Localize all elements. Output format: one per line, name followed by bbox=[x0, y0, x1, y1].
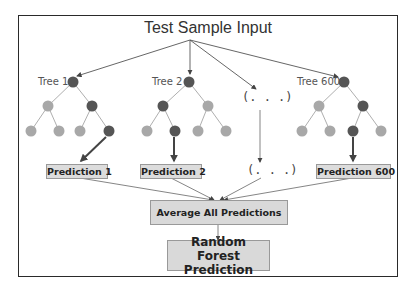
average-predictions-box: Average All Predictions bbox=[150, 200, 288, 225]
tree-ellipsis-label: (. . .) bbox=[242, 90, 293, 104]
aggregate-arrows bbox=[80, 178, 352, 200]
tree-1-label: Tree 1 bbox=[38, 76, 68, 87]
rf-label-line2: Prediction bbox=[184, 263, 253, 277]
random-forest-prediction-box: Random Forest Prediction bbox=[167, 240, 270, 271]
tree-2-graph bbox=[142, 77, 232, 162]
tree-1-graph bbox=[26, 77, 115, 162]
prediction-600-box: Prediction 600 bbox=[316, 164, 391, 179]
rf-label-line1: Random Forest bbox=[168, 235, 269, 263]
tree-600-label: Tree 600 bbox=[297, 76, 340, 87]
tree-600-graph bbox=[297, 77, 387, 162]
prediction-2-box: Prediction 2 bbox=[140, 164, 202, 179]
prediction-ellipsis: (. . .) bbox=[247, 163, 298, 177]
prediction-1-box: Prediction 1 bbox=[46, 164, 108, 179]
tree-2-label: Tree 2 bbox=[152, 76, 182, 87]
diagram-title: Test Sample Input bbox=[18, 19, 398, 37]
